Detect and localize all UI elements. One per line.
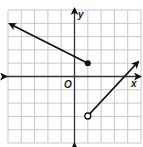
coordinate-graph: y x O: [0, 0, 143, 147]
y-axis-label: y: [77, 9, 84, 20]
origin-label: O: [64, 79, 72, 90]
closed-endpoint: [85, 60, 91, 66]
open-endpoint: [85, 113, 91, 119]
x-axis-label: x: [130, 78, 137, 89]
